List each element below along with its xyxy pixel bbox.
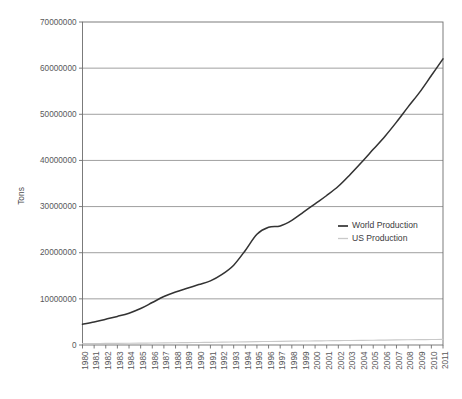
y-tick-label: 10000000 — [40, 295, 77, 304]
x-tick-label: 1995 — [255, 351, 264, 370]
x-tick-label: 1993 — [232, 351, 241, 370]
x-tick-label: 2007 — [395, 351, 404, 370]
production-line-chart: 0100000002000000030000000400000005000000… — [0, 0, 462, 399]
x-tick-label: 1986 — [151, 351, 160, 370]
x-tick-label: 1996 — [267, 351, 276, 370]
x-tick-label: 1991 — [209, 351, 218, 370]
chart-background — [0, 0, 462, 399]
x-tick-label: 2008 — [406, 351, 415, 370]
x-tick-label: 2009 — [418, 351, 427, 370]
chart-canvas: 0100000002000000030000000400000005000000… — [0, 0, 462, 399]
x-tick-label: 1989 — [185, 351, 194, 370]
x-tick-label: 1985 — [139, 351, 148, 370]
legend-label: US Production — [352, 233, 408, 243]
x-tick-label: 2004 — [360, 351, 369, 370]
x-tick-label: 2001 — [325, 351, 334, 370]
x-tick-label: 2003 — [348, 351, 357, 370]
x-tick-label: 2010 — [430, 351, 439, 370]
x-tick-label: 1998 — [290, 351, 299, 370]
y-tick-label: 30000000 — [40, 202, 77, 211]
x-tick-label: 1984 — [127, 351, 136, 370]
legend-label: World Production — [352, 220, 418, 230]
y-tick-label: 70000000 — [40, 18, 77, 27]
y-tick-label: 40000000 — [40, 156, 77, 165]
x-tick-label: 1994 — [244, 351, 253, 370]
x-tick-label: 1981 — [92, 351, 101, 370]
y-axis-title: Tons — [16, 187, 26, 205]
x-tick-label: 2005 — [371, 351, 380, 370]
x-tick-label: 1988 — [174, 351, 183, 370]
x-tick-label: 2011 — [441, 351, 450, 369]
y-axis-title-text: Tons — [16, 187, 26, 205]
y-tick-label: 0 — [72, 341, 77, 350]
x-tick-label: 1999 — [302, 351, 311, 370]
x-tick-label: 1980 — [81, 351, 90, 370]
x-tick-label: 1987 — [162, 351, 171, 370]
y-tick-label: 50000000 — [40, 110, 77, 119]
x-tick-label: 1990 — [197, 351, 206, 370]
y-tick-label: 20000000 — [40, 248, 77, 257]
x-tick-label: 1982 — [104, 351, 113, 370]
x-tick-label: 1997 — [278, 351, 287, 370]
x-tick-label: 2006 — [383, 351, 392, 370]
x-tick-label: 1992 — [220, 351, 229, 370]
x-tick-label: 2002 — [337, 351, 346, 370]
y-tick-label: 60000000 — [40, 64, 77, 73]
x-tick-label: 2000 — [313, 351, 322, 370]
x-tick-label: 1983 — [116, 351, 125, 370]
